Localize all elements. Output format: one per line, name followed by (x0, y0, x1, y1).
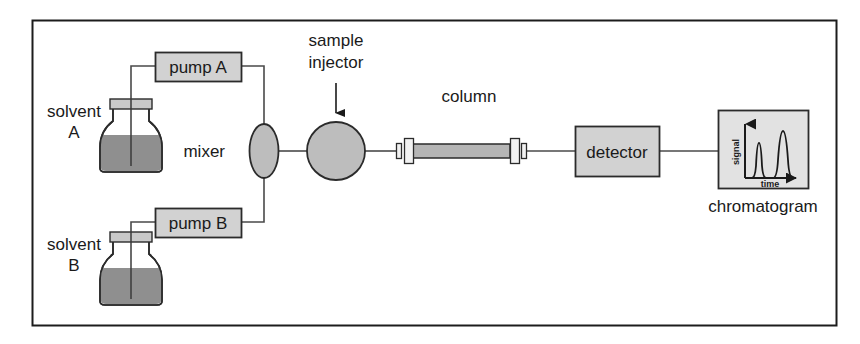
line-pump-b-to-mixer (241, 178, 264, 222)
column-label: column (442, 87, 497, 106)
chromatogram-panel[interactable]: signal time (719, 111, 809, 190)
pump-a-label: pump A (169, 58, 227, 77)
pump-a[interactable]: pump A (156, 53, 242, 82)
line-bottle-b-to-pump-b (131, 222, 155, 228)
line-bottle-a-to-pump-a (131, 66, 155, 95)
hplc-diagram: pump A pump B detector (0, 0, 860, 344)
sample-injector-circle[interactable] (307, 122, 365, 180)
pump-b[interactable]: pump B (156, 209, 242, 238)
line-pump-a-to-mixer (241, 66, 264, 125)
solvent-bottle-b (100, 228, 162, 305)
mixer[interactable] (250, 124, 279, 178)
chromatogram-y-axis-label: signal (731, 139, 741, 165)
column-outlet-collar (511, 139, 520, 164)
solvent-b-label: solvent (47, 235, 101, 254)
solvent-a-sublabel: A (68, 123, 80, 142)
column-inlet-collar (405, 139, 414, 164)
detector[interactable]: detector (576, 127, 660, 177)
solvent-a-label: solvent (47, 102, 101, 121)
column-tube[interactable] (413, 144, 510, 158)
solvent-bottle-a (100, 95, 162, 172)
sample-injector-label-line2: injector (309, 53, 364, 72)
solvent-b-sublabel: B (68, 256, 79, 275)
sample-injector-label-line1: sample (309, 31, 364, 50)
column[interactable] (397, 139, 527, 164)
mixer-ellipse[interactable] (250, 124, 279, 178)
sample-injector[interactable] (307, 83, 365, 180)
detector-label: detector (586, 143, 648, 162)
pump-b-label: pump B (169, 214, 228, 233)
chromatogram-x-axis-label: time (761, 179, 780, 189)
chromatogram-label: chromatogram (708, 197, 818, 216)
column-inlet-nut (397, 144, 402, 159)
mixer-label: mixer (183, 142, 225, 161)
column-outlet-nut (522, 144, 527, 159)
hplc-schematic-svg: pump A pump B detector (0, 0, 860, 344)
